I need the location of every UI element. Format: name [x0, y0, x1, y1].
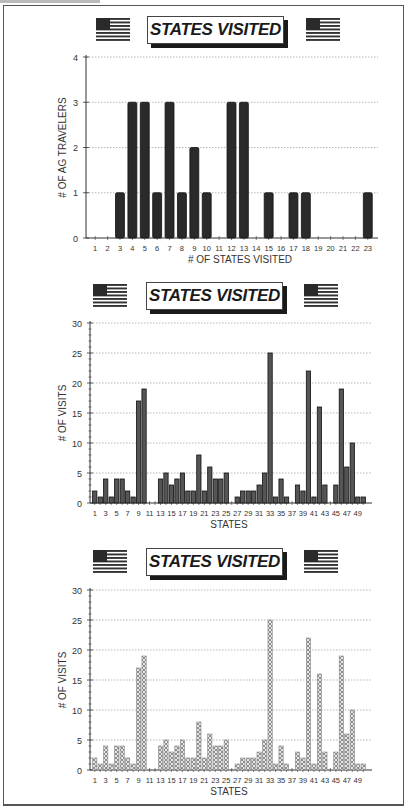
bar-42 [317, 407, 321, 503]
x-tick-label: 8 [180, 244, 184, 253]
y-tick-label: 5 [77, 469, 82, 479]
chart-title-box: STATES VISITED [146, 548, 283, 576]
bar-49 [356, 497, 360, 503]
bar-9 [190, 148, 199, 239]
bar-23 [213, 479, 217, 503]
bar-1 [93, 758, 97, 770]
bar-42 [317, 674, 321, 770]
x-tick-label: 9 [136, 776, 140, 785]
bar-13 [158, 746, 162, 770]
bar-25 [224, 473, 228, 503]
x-tick-label: 45 [332, 509, 340, 518]
bar-4 [109, 497, 113, 503]
x-tick-label: 15 [265, 244, 273, 253]
bar-33 [268, 353, 272, 503]
x-tick-label: 39 [299, 509, 307, 518]
bar-28 [241, 758, 245, 770]
bar-40 [306, 638, 310, 770]
y-tick-label: 0 [77, 499, 82, 509]
bar-43 [323, 485, 327, 503]
us-flag-icon [306, 18, 340, 42]
x-tick-label: 15 [167, 509, 175, 518]
bar-18 [186, 491, 190, 503]
bar-8 [131, 497, 135, 503]
bar-41 [312, 497, 316, 503]
us-flag-icon [304, 550, 338, 574]
x-tick-label: 25 [222, 776, 230, 785]
bar-13 [158, 479, 162, 503]
y-tick-label: 0 [77, 766, 82, 776]
x-tick-label: 49 [354, 509, 362, 518]
bar-3 [104, 746, 108, 770]
x-tick-label: 13 [156, 776, 164, 785]
x-tick-label: 5 [115, 509, 119, 518]
panel-2-header: STATES VISITED [0, 279, 409, 319]
bar-9 [136, 401, 140, 503]
x-tick-label: 11 [146, 776, 154, 785]
x-tick-label: 3 [104, 776, 108, 785]
x-tick-label: 27 [233, 776, 241, 785]
x-tick-label: 20 [326, 244, 334, 253]
y-axis-label: # OF AG TRAVELERS [57, 97, 68, 198]
bar-30 [252, 758, 256, 770]
x-tick-label: 49 [354, 776, 362, 785]
y-tick-label: 5 [77, 736, 82, 746]
x-axis-label: # OF STATES VISITED [188, 254, 292, 265]
bar-6 [120, 479, 124, 503]
bar-36 [284, 497, 288, 503]
chart-travelers-by-states-count: 0123412345678910111213141516171819202122… [0, 50, 409, 270]
x-tick-label: 2 [106, 244, 110, 253]
bar-34 [273, 497, 277, 503]
x-tick-label: 18 [302, 244, 310, 253]
bar-21 [202, 491, 206, 503]
x-tick-label: 9 [192, 244, 196, 253]
bar-14 [164, 473, 168, 503]
bar-32 [262, 473, 266, 503]
x-tick-label: 23 [364, 244, 372, 253]
x-tick-label: 13 [156, 509, 164, 518]
page-top-edge [0, 0, 100, 3]
y-tick-label: 1 [73, 188, 78, 198]
x-axis-label: STATES [210, 519, 248, 530]
bar-23 [213, 746, 217, 770]
bar-30 [252, 491, 256, 503]
y-tick-label: 10 [72, 439, 82, 449]
bar-2 [98, 497, 102, 503]
bar-39 [301, 758, 305, 770]
bar-35 [279, 479, 283, 503]
y-tick-label: 30 [72, 586, 82, 596]
y-tick-label: 3 [73, 98, 78, 108]
bar-31 [257, 752, 261, 770]
bar-4 [128, 102, 137, 238]
x-tick-label: 45 [332, 776, 340, 785]
chart-title: STATES VISITED [149, 286, 280, 306]
x-tick-label: 22 [351, 244, 359, 253]
bar-17 [180, 740, 184, 770]
bar-16 [175, 479, 179, 503]
bar-50 [361, 764, 365, 770]
bar-25 [224, 740, 228, 770]
bar-29 [246, 491, 250, 503]
bar-19 [191, 491, 195, 503]
x-tick-label: 39 [299, 776, 307, 785]
y-tick-label: 20 [72, 379, 82, 389]
x-tick-label: 33 [266, 509, 274, 518]
bar-34 [273, 764, 277, 770]
bar-18 [186, 758, 190, 770]
bar-46 [339, 656, 343, 770]
bar-9 [136, 668, 140, 770]
x-tick-label: 29 [244, 776, 252, 785]
bar-27 [235, 497, 239, 503]
bar-20 [197, 722, 201, 770]
bar-20 [197, 455, 201, 503]
x-tick-label: 7 [167, 244, 171, 253]
x-tick-label: 43 [321, 509, 329, 518]
bar-19 [191, 758, 195, 770]
bar-36 [284, 764, 288, 770]
y-tick-label: 2 [73, 143, 78, 153]
x-tick-label: 19 [189, 776, 197, 785]
x-tick-label: 21 [200, 776, 208, 785]
bar-45 [334, 485, 338, 503]
bar-1 [93, 491, 97, 503]
y-tick-label: 15 [72, 676, 82, 686]
